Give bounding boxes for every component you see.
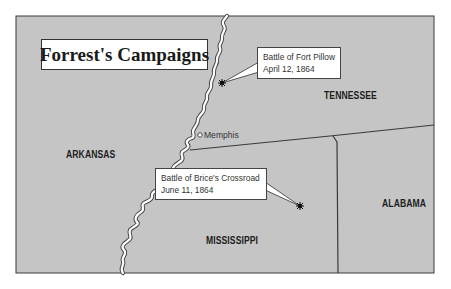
map-title: Forrest's Campaigns bbox=[40, 44, 209, 66]
fort-pillow-battle-marker-icon bbox=[218, 79, 226, 87]
state-label-arkansas: ARKANSAS bbox=[66, 149, 115, 160]
fort-pillow-date: April 12, 1864 bbox=[263, 63, 326, 75]
state-label-alabama: ALABAMA bbox=[382, 198, 426, 209]
brices-crossroad-name: Battle of Brice's Crossroad bbox=[161, 172, 249, 184]
brices-crossroad-battle-marker-icon bbox=[296, 202, 304, 210]
city-label-memphis: Memphis bbox=[204, 129, 239, 140]
map-title-box: Forrest's Campaigns bbox=[41, 39, 208, 70]
state-label-tennessee: TENNESSEE bbox=[324, 90, 377, 101]
state-label-mississippi: MISSISSIPPI bbox=[206, 235, 258, 246]
memphis-city-marker-icon bbox=[198, 133, 202, 137]
fort-pillow-callout: Battle of Fort Pillow April 12, 1864 bbox=[257, 47, 341, 79]
brices-crossroad-callout: Battle of Brice's Crossroad June 11, 186… bbox=[155, 168, 267, 200]
brices-crossroad-date: June 11, 1864 bbox=[161, 184, 249, 196]
fort-pillow-name: Battle of Fort Pillow bbox=[263, 51, 326, 63]
